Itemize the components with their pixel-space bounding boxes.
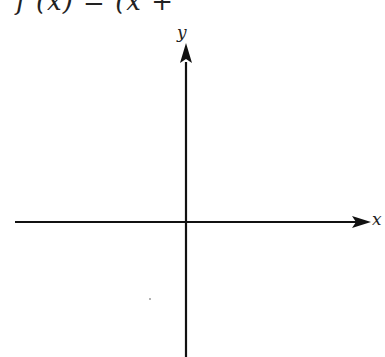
axes-svg (0, 0, 385, 357)
stray-mark (149, 298, 151, 300)
x-axis-label: x (372, 209, 382, 229)
y-axis-label: y (177, 22, 187, 42)
y-axis-arrow-icon (180, 43, 192, 63)
coordinate-plane: f (x) = (x + y x (0, 0, 385, 357)
